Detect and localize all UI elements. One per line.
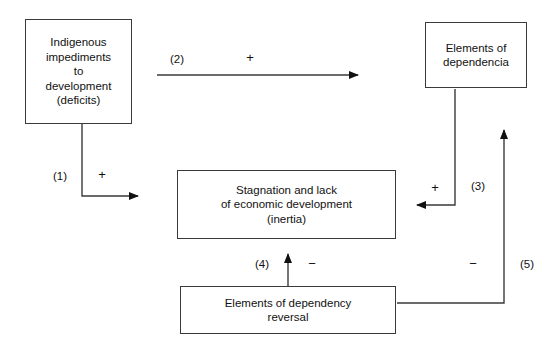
edge-label-4: (4): [250, 258, 274, 270]
node-label-elements-of-dependencia: Elements of dependencia: [439, 41, 513, 70]
connector-edge-1: [82, 124, 138, 196]
node-dependency-reversal[interactable]: Elements of dependency reversal: [180, 286, 396, 334]
edge-sign-3: +: [428, 180, 442, 195]
edge-label-1: (1): [48, 170, 72, 182]
connector-edge-5: [397, 130, 504, 303]
node-stagnation[interactable]: Stagnation and lack of economic developm…: [177, 170, 396, 239]
edge-label-2: (2): [165, 53, 189, 65]
node-label-dependency-reversal: Elements of dependency reversal: [221, 296, 356, 325]
node-indigenous-impediments[interactable]: Indigenous impediments to development (d…: [25, 19, 132, 124]
node-label-stagnation: Stagnation and lack of economic developm…: [217, 183, 356, 227]
edge-sign-5: −: [466, 256, 480, 271]
edge-sign-1: +: [95, 167, 109, 182]
edge-label-3: (3): [466, 180, 490, 192]
edge-label-5: (5): [515, 258, 539, 270]
diagram-canvas: Indigenous impediments to development (d…: [0, 0, 559, 352]
edge-sign-4: −: [305, 256, 319, 271]
edge-sign-2: +: [243, 50, 257, 65]
node-label-indigenous-impediments: Indigenous impediments to development (d…: [42, 35, 116, 108]
node-elements-of-dependencia[interactable]: Elements of dependencia: [425, 22, 527, 88]
